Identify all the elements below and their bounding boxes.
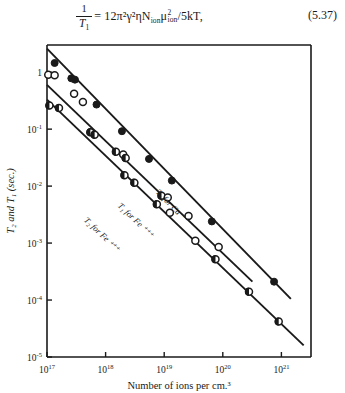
y-tick-label: 10-5 xyxy=(27,351,42,363)
x-tick-exponent: 18 xyxy=(107,363,114,370)
y-tick-exponent: -2 xyxy=(37,180,42,187)
y-axis-title: T₂ and T₁ (sec.) xyxy=(5,168,17,234)
series-annotation-t1-for-fe---: T₁ for Fe ⁺⁺⁺ xyxy=(116,200,157,240)
equation-tail: /5kT, xyxy=(177,9,202,23)
fit-lines-group xyxy=(47,49,304,346)
x-tick-label: 1018 xyxy=(98,363,114,375)
y-tick-label: 10-3 xyxy=(27,237,42,249)
x-tick-exponent: 20 xyxy=(224,363,231,370)
equation-mu-sub: ion xyxy=(168,17,178,23)
y-tick-exponent: -3 xyxy=(37,237,42,244)
y-tick-label: 10-1 xyxy=(27,123,42,135)
data-point-open xyxy=(192,237,199,244)
axis-group xyxy=(47,45,311,357)
data-point-open xyxy=(51,72,58,79)
y-tick-exponent: -5 xyxy=(37,351,42,358)
data-point-open xyxy=(215,244,222,251)
equation-denominator: T1 xyxy=(76,16,92,32)
y-tick-label: 10-2 xyxy=(27,180,42,192)
y-tick-label: 10-4 xyxy=(27,294,43,306)
data-point-filled xyxy=(93,101,100,108)
data-point-filled xyxy=(271,278,278,285)
series-annotation-t2-for-fe---: T₂ for Fe ⁺⁺⁺ xyxy=(82,215,123,255)
x-tick-exponent: 17 xyxy=(49,363,56,370)
data-point-filled xyxy=(145,155,152,162)
fit-line-t1-for-cu-- xyxy=(47,49,291,299)
data-point-filled xyxy=(71,76,78,83)
data-point-filled xyxy=(168,177,175,184)
x-tick-label: 1017 xyxy=(39,363,56,375)
equation-row: 1 T1 = 12π²γ²ηNionμ2ion/5kT, (5.37) xyxy=(0,0,345,40)
equation-rhs-sub-ion: ion xyxy=(151,17,161,26)
equation-mu-supsub: 2ion xyxy=(168,10,178,23)
x-tick-label: 1021 xyxy=(273,363,289,375)
x-tick-exponent: 19 xyxy=(166,363,173,370)
y-tick-exponent: -4 xyxy=(37,294,43,301)
equation-fraction: 1 T1 xyxy=(76,4,92,31)
data-point-filled xyxy=(51,59,58,66)
x-tick-label: 1020 xyxy=(215,363,231,375)
x-axis-title: Number of ions per cm.³ xyxy=(127,380,230,391)
data-point-open xyxy=(71,90,78,97)
tick-labels-group: 10171018101910201021110-110-210-310-410-… xyxy=(27,68,289,375)
figure-container: 10171018101910201021110-110-210-310-410-… xyxy=(0,38,345,393)
data-point-open xyxy=(79,98,86,105)
series-annotations-group: T₁ for Cu ⁺⁺T₁ for Fe ⁺⁺⁺T₂ for Fe ⁺⁺⁺ xyxy=(82,187,191,255)
ticks-group xyxy=(47,72,281,357)
fit-line-t1-for-fe--- xyxy=(47,85,252,282)
equation-rhs-main: = 12π²γ²ηN xyxy=(94,9,150,23)
equation-mu: μ xyxy=(161,9,168,23)
plot-svg: 10171018101910201021110-110-210-310-410-… xyxy=(0,38,345,393)
equation-number: (5.37) xyxy=(308,8,337,23)
x-tick-label: 1019 xyxy=(156,363,172,375)
y-tick-exponent: -1 xyxy=(37,123,42,130)
data-point-filled xyxy=(208,218,215,225)
x-tick-exponent: 21 xyxy=(283,363,290,370)
equation-right-hand-side: = 12π²γ²ηNionμ2ion/5kT, xyxy=(94,9,202,25)
y-tick-label: 1 xyxy=(37,68,42,78)
data-point-filled xyxy=(118,128,125,135)
equation-numerator: 1 xyxy=(79,4,90,16)
equation-expression: 1 T1 = 12π²γ²ηNionμ2ion/5kT, xyxy=(76,4,203,31)
